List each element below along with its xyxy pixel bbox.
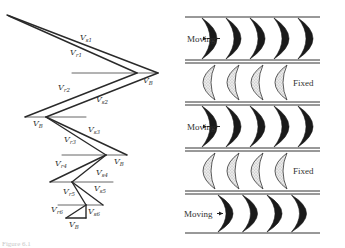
fixed-blade [251, 65, 263, 100]
label-vr4: Vr4 [55, 159, 67, 169]
vector-vs1 [7, 15, 158, 73]
fixed-blade [275, 153, 287, 189]
label-vs5: Vs5 [94, 184, 107, 194]
label-vr2: Vr2 [58, 83, 70, 93]
label-vr5: Vr5 [63, 187, 75, 197]
velocity-labels: Vs1 Vr1 VB Vr2 Vs2 VB Vs3 Vr3 VB Vr4 Vs4… [33, 33, 153, 230]
label-vs1: Vs1 [80, 33, 92, 43]
moving-blade [292, 195, 307, 232]
velocity-compounded-turbine-figure: Vs1 Vr1 VB Vr2 Vs2 VB Vs3 Vr3 VB Vr4 Vs4… [0, 0, 345, 248]
label-vs6: Vs6 [88, 207, 101, 217]
label-vs2: Vs2 [96, 95, 109, 105]
fixed-blade [251, 153, 263, 189]
velocity-diagram [7, 15, 158, 218]
moving-blade [250, 18, 265, 59]
vector-vr6 [66, 205, 86, 218]
moving-blade [250, 106, 265, 147]
moving-blade [298, 106, 313, 147]
label-vb2: VB [33, 119, 43, 129]
label-vb4: VB [69, 220, 79, 230]
fixed-blade [275, 65, 287, 100]
label-vr6: Vr6 [51, 205, 63, 215]
fixed-blade [227, 153, 239, 189]
figure-caption: Figure 6.1 [2, 240, 31, 248]
vector-vs3 [46, 117, 127, 155]
moving-blade [243, 195, 258, 232]
label-vr1: Vr1 [70, 48, 82, 58]
fixed-blade [227, 65, 239, 100]
fixed-blade [203, 65, 215, 100]
label-vs3: Vs3 [88, 125, 101, 135]
label-vr3: Vr3 [64, 135, 76, 145]
vector-vr3 [46, 117, 106, 155]
label-vb3: VB [114, 157, 124, 167]
vector-vr2 [25, 73, 137, 117]
vector-vr1 [9, 16, 137, 73]
fixed-row-label: Fixed [293, 78, 314, 88]
moving-row-label: Moving [184, 209, 213, 219]
moving-blade [226, 18, 241, 59]
moving-blade [298, 18, 313, 59]
moving-blade [226, 106, 241, 147]
moving-blade [274, 18, 289, 59]
label-vs4: Vs4 [96, 168, 109, 178]
blade-rows: MovingFixedMovingFixedMoving [184, 17, 320, 233]
motion-arrow-head-icon [219, 212, 223, 216]
fixed-row-label: Fixed [293, 166, 314, 176]
moving-blade [274, 106, 289, 147]
fixed-blade [203, 153, 215, 189]
vector-vs2 [46, 73, 158, 117]
label-vb1: VB [143, 76, 153, 86]
moving-blade [267, 195, 282, 232]
